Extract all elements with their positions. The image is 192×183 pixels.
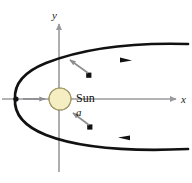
- orbit-upper-branch: [15, 44, 188, 99]
- y-axis-label: y: [51, 9, 57, 21]
- lower-direction-arrow-icon: [118, 136, 130, 141]
- upper-direction-arrow-icon: [120, 57, 132, 62]
- orbit-diagram-canvas: y x Sun a: [0, 0, 192, 183]
- orbit-figure: y x Sun a: [0, 0, 192, 183]
- sun-label: Sun: [76, 91, 95, 105]
- perihelion-point: [13, 96, 18, 101]
- acceleration-label: a: [76, 106, 82, 118]
- orbit-lower-branch: [15, 99, 188, 150]
- x-axis-label: x: [180, 93, 186, 105]
- acceleration-vector-upper: [70, 60, 88, 73]
- upper-body-dot: [86, 73, 91, 78]
